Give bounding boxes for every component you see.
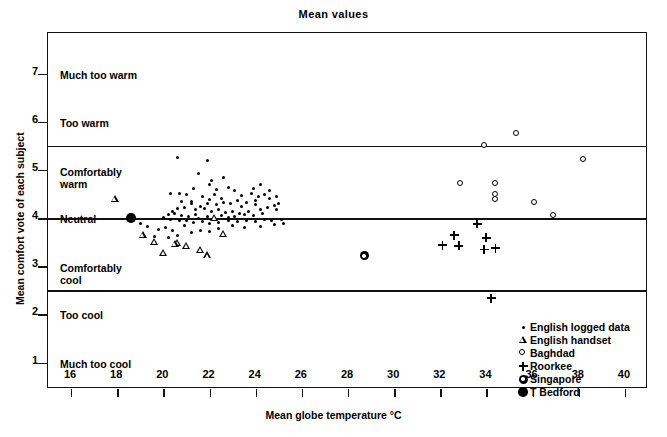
y-tick bbox=[38, 266, 48, 267]
data-point-small-dot bbox=[220, 214, 223, 217]
data-point-circle-open bbox=[550, 212, 556, 218]
data-point-small-dot bbox=[208, 183, 211, 186]
data-point-small-dot bbox=[171, 229, 174, 232]
y-tick-label: 2 bbox=[12, 305, 38, 317]
y-category-label: Neutral bbox=[60, 213, 96, 225]
data-point-triangle-open bbox=[219, 230, 227, 237]
data-point-small-dot bbox=[275, 208, 278, 211]
data-point-triangle-open bbox=[111, 195, 119, 202]
y-category-label: Comfortably warm bbox=[60, 166, 122, 190]
data-point-small-dot bbox=[192, 221, 195, 224]
data-point-plus bbox=[487, 294, 496, 303]
data-point-small-dot bbox=[203, 207, 206, 210]
data-point-small-dot bbox=[236, 199, 239, 202]
reference-line bbox=[48, 290, 646, 291]
data-point-small-dot bbox=[220, 197, 223, 200]
data-point-small-dot bbox=[215, 203, 218, 206]
data-point-small-dot bbox=[162, 216, 165, 219]
data-point-small-dot bbox=[252, 187, 255, 190]
data-point-small-dot bbox=[257, 195, 260, 198]
data-point-triangle-open bbox=[159, 249, 167, 256]
data-point-small-dot bbox=[213, 193, 216, 196]
data-point-small-dot bbox=[259, 183, 262, 186]
data-point-small-dot bbox=[227, 186, 230, 189]
data-point-small-dot bbox=[243, 226, 246, 229]
data-point-small-dot bbox=[222, 201, 225, 204]
data-point-small-dot bbox=[139, 222, 142, 225]
x-tick bbox=[440, 389, 441, 397]
data-point-small-dot bbox=[178, 219, 181, 222]
data-point-plus bbox=[438, 241, 447, 250]
data-point-small-dot bbox=[282, 222, 285, 225]
data-point-small-dot bbox=[229, 202, 232, 205]
data-point-small-dot bbox=[167, 236, 170, 239]
data-point-circle-open bbox=[481, 142, 487, 148]
data-point-small-dot bbox=[231, 224, 234, 227]
data-point-plus bbox=[491, 244, 500, 253]
y-tick bbox=[38, 218, 48, 219]
data-point-small-dot bbox=[146, 225, 149, 228]
y-tick bbox=[38, 363, 48, 364]
y-category-label: Too cool bbox=[60, 309, 103, 321]
data-point-small-dot bbox=[259, 225, 262, 228]
data-point-small-dot bbox=[268, 197, 271, 200]
x-tick bbox=[486, 389, 487, 397]
data-point-small-dot bbox=[266, 206, 269, 209]
data-point-small-dot bbox=[217, 221, 220, 224]
x-tick bbox=[348, 389, 349, 397]
data-point-circle-open bbox=[580, 156, 586, 162]
y-tick-label: 4 bbox=[12, 209, 38, 221]
data-point-small-dot bbox=[273, 204, 276, 207]
data-point-small-dot bbox=[233, 189, 236, 192]
data-point-small-dot bbox=[208, 198, 211, 201]
data-point-small-dot bbox=[180, 214, 183, 217]
x-tick-label: 34 bbox=[479, 368, 491, 380]
y-tick-label: 7 bbox=[12, 65, 38, 77]
data-point-triangle-open bbox=[139, 231, 147, 238]
legend-marker-icon bbox=[516, 386, 530, 398]
data-point-small-dot bbox=[201, 195, 204, 198]
data-point-small-dot bbox=[185, 193, 188, 196]
y-category-label: Comfortably cool bbox=[60, 262, 122, 286]
y-tick-label: 1 bbox=[12, 354, 38, 366]
data-point-small-dot bbox=[171, 210, 174, 213]
x-tick bbox=[163, 389, 164, 397]
data-point-triangle-open bbox=[210, 214, 218, 221]
data-point-small-dot bbox=[277, 202, 280, 205]
data-point-triangle-open bbox=[182, 242, 190, 249]
data-point-small-dot bbox=[183, 224, 186, 227]
data-points bbox=[48, 29, 646, 107]
data-point-small-dot bbox=[210, 210, 213, 213]
x-tick-label: 16 bbox=[64, 368, 76, 380]
data-point-circle-open bbox=[492, 196, 498, 202]
scatter-chart: Mean values Mean comfort vote of each su… bbox=[0, 0, 667, 437]
x-tick-label: 36 bbox=[525, 368, 537, 380]
plot-area: Much too warmToo warmComfortably warmNeu… bbox=[47, 32, 647, 388]
data-point-small-dot bbox=[199, 229, 202, 232]
data-point-small-dot bbox=[247, 210, 250, 213]
data-point-triangle-open bbox=[150, 238, 158, 245]
data-point-small-dot bbox=[245, 201, 248, 204]
data-point-small-dot bbox=[240, 205, 243, 208]
legend-marker-icon bbox=[516, 334, 530, 346]
data-point-filled-circle bbox=[126, 213, 136, 223]
chart-title: Mean values bbox=[0, 8, 667, 20]
x-tick-label: 22 bbox=[202, 368, 214, 380]
data-point-small-dot bbox=[261, 212, 264, 215]
data-point-small-dot bbox=[215, 188, 218, 191]
legend-item: English logged data bbox=[516, 321, 630, 333]
legend-label: English logged data bbox=[530, 321, 630, 333]
data-point-small-dot bbox=[263, 193, 266, 196]
data-point-small-dot bbox=[273, 223, 276, 226]
reference-line bbox=[48, 146, 646, 147]
data-point-plus bbox=[454, 241, 463, 250]
x-tick-label: 26 bbox=[295, 368, 307, 380]
data-point-small-dot bbox=[183, 206, 186, 209]
data-point-triangle-open bbox=[203, 251, 211, 258]
data-point-small-dot bbox=[178, 192, 181, 195]
data-point-small-dot bbox=[231, 210, 234, 213]
data-point-small-dot bbox=[236, 220, 239, 223]
chart-legend: English logged dataEnglish handsetBaghda… bbox=[516, 321, 630, 399]
x-tick-label: 24 bbox=[249, 368, 261, 380]
data-point-small-dot bbox=[194, 208, 197, 211]
